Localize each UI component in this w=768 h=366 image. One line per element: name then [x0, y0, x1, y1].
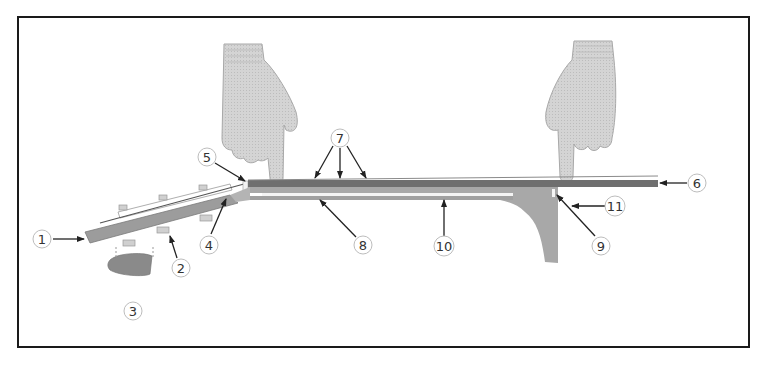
svg-text:3: 3	[129, 304, 137, 319]
truss-rod-cover	[108, 254, 152, 276]
svg-text:8: 8	[359, 238, 367, 253]
label-9: 9	[592, 237, 610, 255]
svg-text:7: 7	[336, 131, 344, 146]
label-11: 11	[605, 196, 625, 216]
label-8: 8	[354, 236, 372, 254]
label-2: 2	[172, 259, 190, 277]
straightedge	[248, 176, 658, 180]
headstock	[85, 184, 244, 246]
guitar-neck-diagram: 1 2 3 4 5 6 7 8 9 10 11	[0, 0, 768, 366]
label-3: 3	[124, 302, 142, 320]
svg-text:1: 1	[38, 232, 46, 247]
right-hand-icon	[546, 41, 616, 182]
left-hand-icon	[222, 44, 297, 184]
svg-text:6: 6	[693, 176, 701, 191]
svg-text:5: 5	[203, 150, 211, 165]
svg-text:4: 4	[205, 238, 213, 253]
svg-text:9: 9	[597, 239, 605, 254]
neck	[230, 180, 658, 202]
svg-text:2: 2	[177, 261, 185, 276]
label-10: 10	[434, 236, 454, 256]
svg-text:11: 11	[607, 199, 624, 214]
label-7: 7	[331, 129, 349, 147]
label-4: 4	[200, 236, 218, 254]
label-1: 1	[33, 230, 51, 248]
label-5: 5	[198, 148, 216, 166]
svg-text:10: 10	[436, 239, 453, 254]
label-6: 6	[688, 174, 706, 192]
